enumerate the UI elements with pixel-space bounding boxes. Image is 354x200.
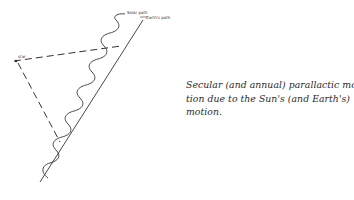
- earth-path-wave: [43, 14, 125, 178]
- dashed-line-to-lower: [18, 63, 60, 142]
- star-marker: [15, 60, 18, 63]
- solar-path-label: Solar path: [127, 10, 148, 15]
- caption-line-3: motion.: [186, 105, 354, 119]
- earth-path-label: Earth's path: [146, 15, 171, 20]
- solar-path-line: [40, 20, 143, 182]
- caption-line-1: Secular (and annual) parallactic mo-: [186, 78, 354, 92]
- star-label: star: [18, 54, 26, 59]
- dashed-line-to-upper: [14, 46, 121, 61]
- figure-caption: Secular (and annual) parallactic mo- tio…: [186, 78, 354, 119]
- caption-line-2: tion due to the Sun's (and Earth's): [186, 92, 354, 106]
